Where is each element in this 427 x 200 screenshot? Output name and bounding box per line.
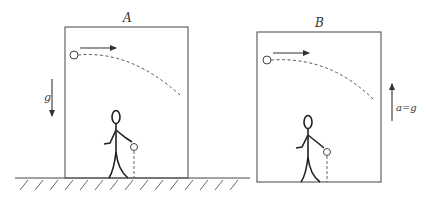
trajectory-path: [271, 60, 374, 100]
acceleration-label: a=g: [396, 102, 417, 113]
elevator-b: B: [257, 16, 381, 182]
physics-diagram: A g B: [0, 0, 427, 200]
person-figure: [296, 116, 324, 183]
elevator-a: A: [65, 11, 188, 178]
held-ball-icon: [131, 144, 138, 151]
trajectory-path: [78, 55, 180, 96]
held-ball-icon: [324, 149, 331, 156]
elevator-a-label: A: [122, 11, 132, 25]
gravity-indicator: g: [44, 79, 52, 116]
ball-icon: [70, 51, 78, 59]
acceleration-indicator: a=g: [392, 84, 417, 121]
gravity-label: g: [44, 91, 51, 104]
ground: [15, 178, 250, 190]
ball-icon: [263, 56, 271, 64]
elevator-b-label: B: [314, 16, 324, 30]
person-figure: [104, 111, 132, 179]
